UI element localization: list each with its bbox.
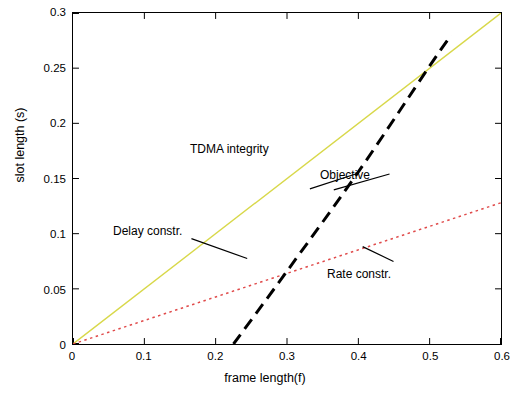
x-tick-0: 0 xyxy=(52,350,92,362)
annotation-rate-constr: Rate constr. xyxy=(327,267,391,281)
y-axis-label: slot length (s) xyxy=(13,65,27,225)
x-axis-label: frame length(f) xyxy=(0,371,530,385)
x-tick-1: 0.1 xyxy=(124,350,164,362)
annotation-delay-constr: Delay constr. xyxy=(113,224,182,238)
x-tick-2: 0.2 xyxy=(195,350,235,362)
x-tick-4: 0.4 xyxy=(339,350,379,362)
plot-area: TDMA integrity Objective Delay constr. R… xyxy=(72,12,502,345)
x-tick-6: 0.6 xyxy=(482,350,522,362)
series-objective-line xyxy=(234,35,452,344)
x-tick-5: 0.5 xyxy=(410,350,450,362)
x-axis-tick-labels: 0 0.1 0.2 0.3 0.4 0.5 0.6 xyxy=(0,350,530,370)
chart-figure: 0 0.05 0.1 0.15 0.2 0.25 0.3 0 0.1 0.2 0… xyxy=(0,0,530,399)
y-axis-tick-labels: 0 0.05 0.1 0.15 0.2 0.25 0.3 xyxy=(0,0,66,399)
y-tick-2: 0.1 xyxy=(4,228,66,240)
annotation-objective: Objective xyxy=(320,168,370,182)
y-tick-1: 0.05 xyxy=(4,284,66,296)
plot-svg xyxy=(73,13,501,344)
y-tick-6: 0.3 xyxy=(4,6,66,18)
series-tdma-integrity-line xyxy=(73,13,501,344)
annotation-tdma-integrity: TDMA integrity xyxy=(190,142,269,156)
x-tick-3: 0.3 xyxy=(267,350,307,362)
